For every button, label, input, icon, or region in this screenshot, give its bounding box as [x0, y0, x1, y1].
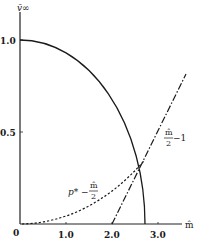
- y-tick-label-05: 0.5: [0, 128, 16, 138]
- annotation-curve: p* − m̂ 2: [68, 181, 98, 201]
- ann-curve-den: 2: [91, 192, 96, 201]
- y-tick-label-1: 1.0: [0, 36, 16, 46]
- chart: v̄∞ m̂ 1.0 0.5 0 1.0 2.0 3.0 m̂ 2 −1 p* …: [0, 0, 201, 246]
- dash-dot-line: [112, 74, 186, 224]
- ann-curve-pre: p* −: [68, 187, 89, 197]
- ann-line-den: 2: [166, 139, 171, 148]
- x-axis-label: m̂: [185, 220, 194, 230]
- x-tick-label-0: 0: [13, 228, 19, 238]
- ann-curve-num: m̂: [90, 181, 98, 190]
- ann-line-num: m̂: [165, 128, 173, 137]
- x-tick-label-3: 3.0: [150, 230, 166, 240]
- annotation-line: m̂ 2 −1: [164, 128, 186, 148]
- ann-line-rest: −1: [173, 133, 186, 143]
- x-tick-label-2: 2.0: [104, 230, 120, 240]
- x-tick-label-1: 1.0: [58, 230, 74, 240]
- y-axis-label: v̄∞: [17, 3, 30, 13]
